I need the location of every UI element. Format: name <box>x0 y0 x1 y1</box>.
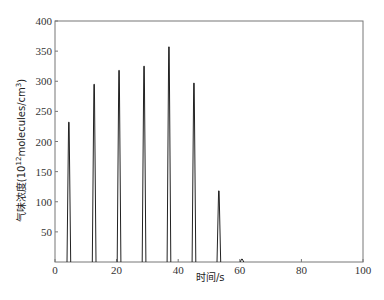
x-tick-label: 60 <box>234 264 246 276</box>
y-axis-title-text: 气味浓度(1012molecules/cm3) <box>14 78 29 221</box>
concentration-peak <box>217 191 221 262</box>
chart: 50100150200250300350400 020406080100 <box>0 0 384 300</box>
concentration-peak <box>167 47 171 262</box>
concentration-peak <box>117 70 121 262</box>
x-tick-label: 40 <box>173 264 185 276</box>
concentration-peak <box>67 122 71 262</box>
y-tick-label: 150 <box>36 166 53 178</box>
y-tick-label: 250 <box>36 105 53 117</box>
data-series <box>67 47 244 262</box>
plot-border <box>55 21 363 262</box>
y-tick-label: 50 <box>41 226 53 238</box>
x-tick-label: 100 <box>355 264 372 276</box>
concentration-peak <box>92 84 96 262</box>
concentration-peak <box>142 66 146 262</box>
y-tick-label: 400 <box>36 15 53 27</box>
y-tick-label: 350 <box>36 45 53 57</box>
ylabel-part: 气味浓度(10 <box>17 165 28 222</box>
x-tick-label: 0 <box>52 264 58 276</box>
x-tick-label: 20 <box>111 264 123 276</box>
y-tick-label: 100 <box>36 196 53 208</box>
y-axis-title: 气味浓度(1012molecules/cm3) <box>14 62 28 238</box>
ylabel-exponent: 12 <box>15 156 23 165</box>
y-tick-label: 300 <box>36 75 53 87</box>
ylabel-close: ) <box>17 78 28 82</box>
plot-frame <box>55 21 363 262</box>
ylabel-unit: molecules/cm <box>17 87 28 156</box>
x-axis-title: 时间/s <box>196 269 225 284</box>
concentration-peak <box>192 83 196 262</box>
x-tick-label: 80 <box>296 264 308 276</box>
y-tick-label: 200 <box>36 136 53 148</box>
